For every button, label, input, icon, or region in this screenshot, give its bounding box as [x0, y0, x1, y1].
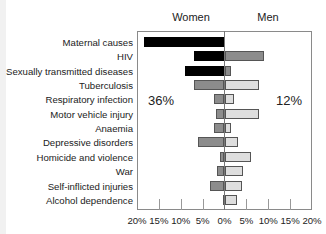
- category-label: Homicide and violence: [36, 151, 133, 162]
- x-tick-label: 15%: [281, 215, 300, 226]
- men-bar: [225, 51, 264, 61]
- x-tick: [246, 199, 247, 210]
- men-bar: [225, 80, 260, 90]
- women-bar: [194, 51, 225, 61]
- category-label: War: [116, 166, 133, 177]
- x-tick-label: 0%: [218, 215, 232, 226]
- category-label: Alcohol dependence: [46, 194, 133, 205]
- category-label: HIV: [117, 51, 133, 62]
- category-label: Depressive disorders: [43, 137, 133, 148]
- men-bar: [225, 181, 242, 191]
- women-bar: [214, 94, 225, 104]
- x-tick-label: 5%: [239, 215, 253, 226]
- x-tick-label: 15%: [149, 215, 168, 226]
- women-bar: [210, 181, 224, 191]
- header-women: Women: [172, 11, 210, 23]
- x-tick: [203, 199, 204, 210]
- men-bar: [225, 152, 251, 162]
- x-tick: [181, 199, 182, 210]
- women-bar: [144, 37, 225, 47]
- x-tick-label: 10%: [259, 215, 278, 226]
- men-bar: [225, 166, 243, 176]
- zero-axis-line: [224, 31, 225, 210]
- header-men: Men: [257, 11, 278, 23]
- men-bar: [225, 94, 235, 104]
- men-bar: [225, 123, 232, 133]
- category-label: Self-inflicted injuries: [48, 180, 133, 191]
- women-bar: [194, 80, 225, 90]
- x-tick-label: 20%: [127, 215, 146, 226]
- category-label: Respiratory infection: [46, 94, 133, 105]
- category-label: Motor vehicle injury: [50, 108, 133, 119]
- x-tick-label: 10%: [171, 215, 190, 226]
- men-bar: [225, 66, 232, 76]
- men-bar: [225, 195, 237, 205]
- category-label: Sexually transmitted diseases: [6, 65, 133, 76]
- men-bar: [225, 137, 238, 147]
- category-label: Maternal causes: [63, 37, 133, 48]
- x-tick: [290, 199, 291, 210]
- men-bar: [225, 109, 260, 119]
- women-total-annotation: 36%: [148, 93, 174, 108]
- x-tick: [159, 199, 160, 210]
- women-bar: [214, 123, 225, 133]
- left-edge-strip: [0, 0, 6, 234]
- category-label: Tuberculosis: [79, 80, 133, 91]
- x-tick: [268, 199, 269, 210]
- women-bar: [198, 137, 224, 147]
- women-bar: [185, 66, 224, 76]
- category-label: Anaemia: [95, 123, 133, 134]
- x-tick-label: 5%: [196, 215, 210, 226]
- x-tick-label: 20%: [302, 215, 321, 226]
- men-total-annotation: 12%: [276, 93, 302, 108]
